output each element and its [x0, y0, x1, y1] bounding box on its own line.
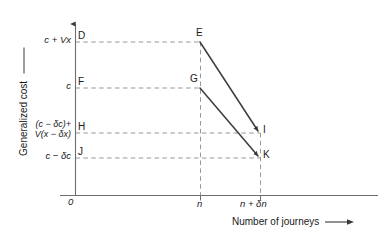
y-tick-label-j: c − δc [0, 151, 71, 161]
point-label-g: G [190, 74, 198, 85]
y-axis-title-rule [23, 47, 24, 73]
point-label-f: F [78, 77, 84, 88]
series-line-e-i [200, 42, 258, 131]
y-tick-label-d: c + Vx [0, 35, 71, 45]
guide-lines [76, 42, 261, 196]
chart-figure: Generalized cost Number of journeys c + … [0, 0, 384, 234]
x-tick-label-n-plus-dn: n + δn [240, 199, 267, 209]
y-tick-label-h: (c − δc)+ V(x − δx) [0, 119, 71, 139]
x-axis-title: Number of journeys [232, 216, 355, 227]
point-label-i: I [263, 125, 266, 136]
point-label-e: E [196, 28, 203, 39]
point-label-j: J [78, 147, 83, 158]
x-tick-label-origin: 0 [68, 197, 73, 207]
chart-series [200, 42, 258, 156]
y-tick-label-h-line1: (c − δc)+ [0, 119, 71, 129]
x-axis-title-text: Number of journeys [232, 216, 319, 227]
x-axis-arrow-icon [325, 218, 355, 226]
point-label-h: H [78, 122, 85, 133]
y-tick-label-f: c [0, 81, 71, 91]
series-line-g-k [200, 88, 258, 156]
y-tick-label-h-line2: V(x − δx) [0, 129, 71, 139]
x-tick-label-n: n [197, 199, 202, 209]
point-label-d: D [78, 31, 85, 42]
point-label-k: K [263, 150, 270, 161]
